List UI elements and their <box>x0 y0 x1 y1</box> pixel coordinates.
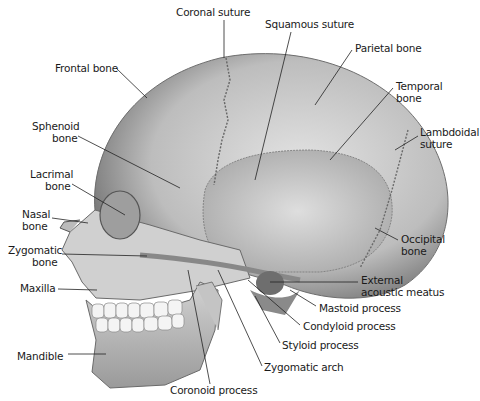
label-parietal-bone: Parietal bone <box>355 42 421 54</box>
skull-illustration <box>0 0 480 401</box>
label-zygomatic-bone: bone <box>32 256 57 268</box>
label-coronal-suture: Coronal suture <box>176 6 250 18</box>
label-nasal-bone: Nasal <box>22 208 50 220</box>
label-lacrimal-bone: bone <box>45 180 70 192</box>
label-external-acoustic-meatus: External <box>361 274 403 286</box>
label-sphenoid-bone: Sphenoid <box>32 120 80 132</box>
skull-diagram: Coronal suture Squamous suture Parietal … <box>0 0 480 401</box>
label-external-acoustic-meatus: acoustic meatus <box>361 286 444 298</box>
label-mandible: Mandible <box>17 350 63 362</box>
label-coronoid-process: Coronoid process <box>170 384 257 396</box>
label-nasal-bone: bone <box>22 220 47 232</box>
label-squamous-suture: Squamous suture <box>265 18 354 30</box>
label-occipital-bone: bone <box>401 245 426 257</box>
label-lambdoidal-suture: Lambdoidal <box>420 126 479 138</box>
label-maxilla: Maxilla <box>20 282 56 294</box>
label-styloid-process: Styloid process <box>282 339 359 351</box>
label-lacrimal-bone: Lacrimal <box>30 168 73 180</box>
label-occipital-bone: Occipital <box>401 233 445 245</box>
label-temporal-bone: bone <box>396 92 421 104</box>
label-condyloid-process: Condyloid process <box>303 320 396 332</box>
label-temporal-bone: Temporal <box>396 80 442 92</box>
label-lambdoidal-suture: suture <box>420 138 452 150</box>
label-mastoid-process: Mastoid process <box>319 302 401 314</box>
orbit <box>100 191 140 239</box>
label-frontal-bone: Frontal bone <box>55 62 118 74</box>
label-zygomatic-arch: Zygomatic arch <box>264 361 343 373</box>
label-zygomatic-bone: Zygomatic <box>8 244 62 256</box>
label-sphenoid-bone: bone <box>52 132 77 144</box>
